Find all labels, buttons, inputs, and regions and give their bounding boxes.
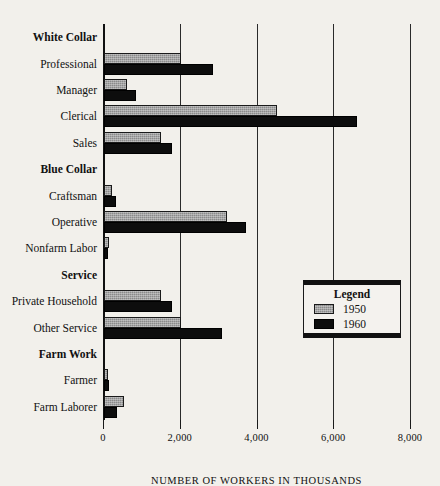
bar-1950-craftsman <box>104 185 112 196</box>
group-label-service: Service <box>61 269 97 281</box>
bar-1960-other-service <box>104 328 222 339</box>
category-label-operative: Operative <box>52 216 97 228</box>
group-label-white-collar: White Collar <box>33 31 97 43</box>
bar-row: Professional <box>103 50 410 76</box>
x-tick-label-6000: 6,000 <box>321 432 346 443</box>
x-tick-label-8000: 8,000 <box>398 432 423 443</box>
category-label-farm-laborer: Farm Laborer <box>33 401 97 413</box>
category-label-sales: Sales <box>73 137 97 149</box>
bar-1960-sales <box>104 143 172 154</box>
tick-mark-4000 <box>257 420 258 429</box>
group-label-blue-collar: Blue Collar <box>40 163 97 175</box>
bar-row: Craftsman <box>103 182 410 208</box>
gridline-8000 <box>410 24 411 420</box>
x-tick-label-0: 0 <box>100 432 105 443</box>
x-axis-title: NUMBER OF WORKERS IN THOUSANDS <box>103 475 410 486</box>
legend-item-1950: 1950 <box>304 301 400 316</box>
group-label-farm-work: Farm Work <box>39 348 97 360</box>
legend-label-1960: 1960 <box>343 318 366 330</box>
category-label-nonfarm-labor: Nonfarm Labor <box>25 242 97 254</box>
bar-row: Operative <box>103 209 410 235</box>
category-label-private-household: Private Household <box>12 295 97 307</box>
tick-mark-2000 <box>180 420 181 429</box>
legend-label-1950: 1950 <box>343 303 366 315</box>
group-header-row: White Collar <box>103 24 410 50</box>
bar-1950-farm-laborer <box>104 396 124 407</box>
bar-1950-farmer <box>104 369 108 380</box>
bar-1950-operative <box>104 211 227 222</box>
bar-row: Nonfarm Labor <box>103 235 410 261</box>
bar-1960-operative <box>104 222 246 233</box>
bar-1950-sales <box>104 132 161 143</box>
bar-1950-private-household <box>104 290 161 301</box>
legend-title: Legend <box>304 287 400 301</box>
legend: Legend 1950 1960 <box>303 280 401 338</box>
bar-1960-farm-laborer <box>104 407 117 418</box>
legend-item-1960: 1960 <box>304 316 400 331</box>
bar-1960-craftsman <box>104 196 116 207</box>
category-label-manager: Manager <box>56 84 97 96</box>
category-label-craftsman: Craftsman <box>49 190 97 202</box>
group-header-row: Farm Work <box>103 341 410 367</box>
tick-mark-6000 <box>333 420 334 429</box>
bar-row: Farm Laborer <box>103 394 410 420</box>
bar-1950-nonfarm-labor <box>104 237 109 248</box>
bar-1950-other-service <box>104 317 181 328</box>
bar-1960-manager <box>104 90 136 101</box>
plot-area: White CollarProfessionalManagerClericalS… <box>103 24 410 420</box>
x-tick-label-4000: 4,000 <box>244 432 269 443</box>
bar-1960-farmer <box>104 380 109 391</box>
bar-row: Sales <box>103 130 410 156</box>
x-tick-label-2000: 2,000 <box>167 432 192 443</box>
tick-mark-0 <box>103 420 104 429</box>
bar-1950-manager <box>104 79 127 90</box>
bar-row: Farmer <box>103 367 410 393</box>
tick-mark-8000 <box>410 420 411 429</box>
category-label-professional: Professional <box>40 58 97 70</box>
legend-swatch-1950-icon <box>314 304 334 314</box>
category-label-clerical: Clerical <box>61 110 97 122</box>
bar-1950-clerical <box>104 105 277 116</box>
bar-row: Manager <box>103 77 410 103</box>
bar-row: Clerical <box>103 103 410 129</box>
bar-1950-professional <box>104 53 181 64</box>
category-label-other-service: Other Service <box>33 322 97 334</box>
bar-1960-professional <box>104 64 213 75</box>
bar-1960-private-household <box>104 301 172 312</box>
bar-1960-clerical <box>104 116 357 127</box>
group-header-row: Blue Collar <box>103 156 410 182</box>
category-label-farmer: Farmer <box>64 374 97 386</box>
bar-1960-nonfarm-labor <box>104 248 108 259</box>
legend-swatch-1960-icon <box>314 319 334 329</box>
